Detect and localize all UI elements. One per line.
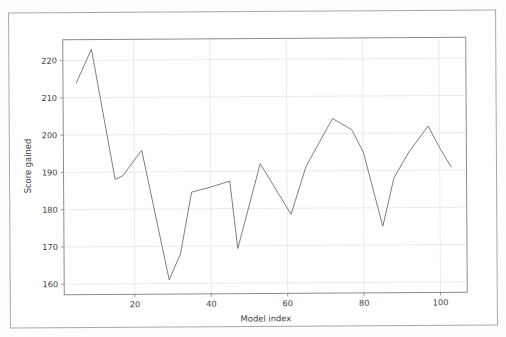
grid-line-vertical [439, 37, 441, 292]
y-tick-label: 160 [43, 279, 59, 289]
grid-line-horizontal [64, 244, 467, 246]
plot-frame [63, 37, 468, 294]
grid-line-horizontal [63, 133, 466, 135]
x-tick-label: 100 [433, 297, 449, 307]
grid-line-vertical [133, 39, 135, 294]
y-tick-label: 220 [41, 56, 57, 66]
x-tick-label: 80 [359, 298, 369, 308]
y-tick-label: 170 [42, 242, 58, 252]
grid-line-horizontal [64, 207, 467, 209]
x-axis-title: Model index [241, 313, 292, 323]
grid-lines [63, 37, 468, 294]
y-tick-label: 190 [42, 167, 58, 177]
matplotlib-figure: 20406080100 160170180190200210220 Model … [0, 0, 506, 337]
grid-line-vertical [210, 39, 212, 294]
grid-line-vertical [286, 38, 288, 293]
y-axis-title: Score gained [23, 139, 33, 194]
x-tick-label: 40 [206, 299, 216, 309]
grid-line-horizontal [64, 282, 467, 284]
x-tick-labels: 20406080100 [130, 297, 449, 309]
y-tick-label: 180 [42, 205, 58, 215]
y-tick-label: 210 [41, 93, 57, 103]
grid-line-horizontal [63, 58, 466, 60]
grid-line-horizontal [63, 95, 466, 97]
x-tick-label: 60 [283, 298, 293, 308]
axis-ticks [60, 58, 441, 297]
axes-spines [63, 37, 468, 294]
y-tick-labels: 160170180190200210220 [41, 56, 58, 290]
y-tick-label: 200 [42, 130, 58, 140]
grid-line-vertical [363, 38, 365, 293]
x-tick-label: 20 [130, 299, 140, 309]
page-canvas: 20406080100 160170180190200210220 Model … [0, 0, 506, 337]
line-chart: 20406080100 160170180190200210220 Model … [0, 0, 506, 337]
